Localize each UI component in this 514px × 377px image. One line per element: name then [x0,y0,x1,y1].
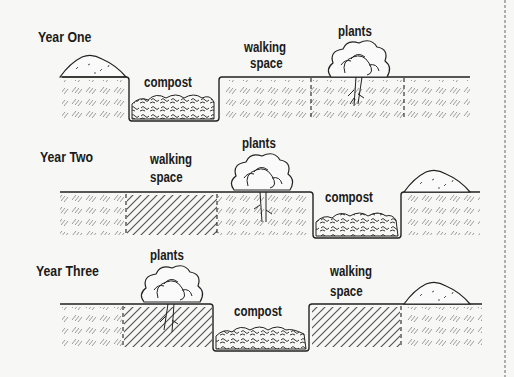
year-one-compost-label: compost [144,75,192,89]
year-two-walking-label: walking [150,152,192,166]
year-three-space-label: space [330,284,363,298]
year-three-plants-label: plants [150,248,184,262]
year-three-label: Year Three [36,264,99,278]
year-three-walking-label: walking [330,264,372,278]
year-three-compost-label: compost [234,304,282,318]
year-two-compost-label: compost [325,190,373,204]
year-one-label: Year One [38,30,91,44]
year-two-plants-label: plants [242,136,276,150]
year-one-plants-label: plants [338,24,372,38]
year-one-space-label: space [250,56,283,70]
trench-composting-diagram: Year One compost walking space plants Ye… [0,0,514,377]
year-two-label: Year Two [40,150,93,164]
year-two-space-label: space [150,170,183,184]
year-two-row [60,154,480,238]
year-one-walking-label: walking [244,40,286,54]
